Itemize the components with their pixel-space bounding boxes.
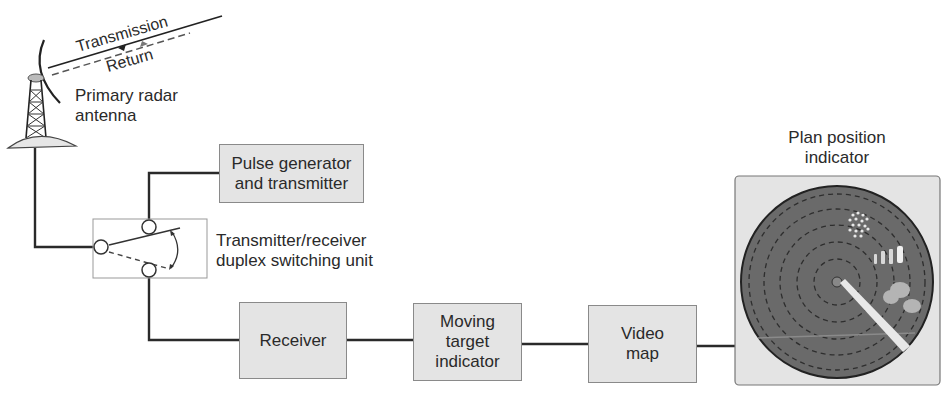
video-map-block: Video map (588, 305, 697, 383)
antenna-label: Primary radar antenna (75, 86, 178, 126)
antenna-icon (8, 40, 76, 148)
duplexer-label: Transmitter/receiver duplex switching un… (216, 231, 373, 271)
pulse-generator-line2: and transmitter (231, 174, 351, 194)
radar-scope-icon (735, 176, 940, 385)
ppi-label: Plan position indicator (752, 128, 922, 168)
video-map-line1: Video (621, 324, 664, 344)
pulse-generator-block: Pulse generator and transmitter (219, 144, 364, 203)
mti-line2: target (435, 332, 499, 352)
ppi-label-line2: indicator (752, 148, 922, 168)
pulse-generator-line1: Pulse generator (231, 154, 351, 174)
receiver-label: Receiver (259, 331, 326, 351)
duplex-switch (93, 219, 207, 278)
ppi-label-line1: Plan position (752, 128, 922, 148)
duplexer-label-line2: duplex switching unit (216, 251, 373, 271)
mti-line3: indicator (435, 352, 499, 372)
duplexer-label-line1: Transmitter/receiver (216, 231, 373, 251)
antenna-label-line1: Primary radar (75, 86, 178, 106)
moving-target-indicator-block: Moving target indicator (413, 303, 522, 381)
video-map-line2: map (621, 344, 664, 364)
receiver-block: Receiver (239, 302, 347, 379)
antenna-label-line2: antenna (75, 106, 178, 126)
mti-line1: Moving (435, 312, 499, 332)
